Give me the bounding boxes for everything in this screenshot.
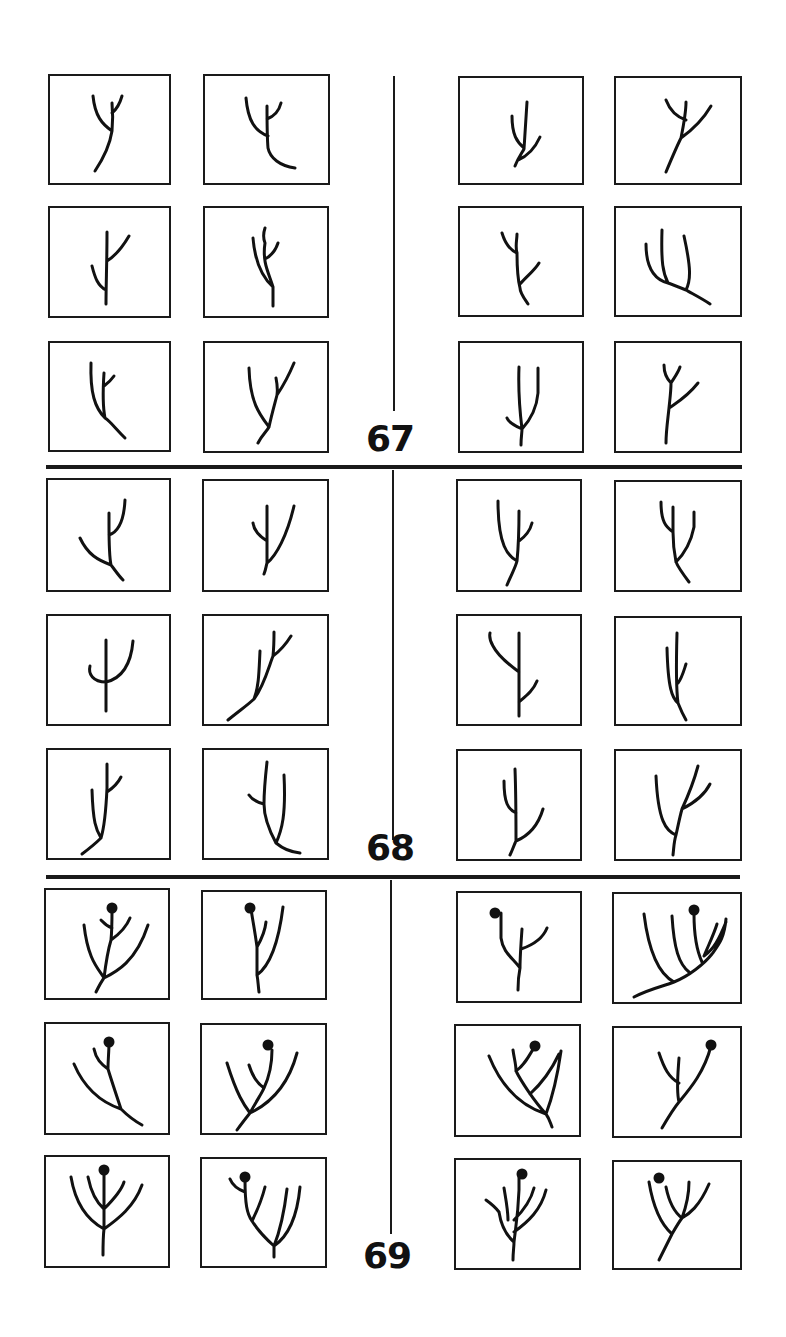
tree-diagram-panel <box>203 206 329 318</box>
branching-tree-icon <box>50 208 169 316</box>
tree-diagram-panel <box>456 891 582 1003</box>
branching-tree-icon <box>48 480 169 590</box>
branching-tree-icon <box>50 343 169 450</box>
branching-tree-icon <box>614 1162 740 1268</box>
terminal-dot-icon <box>245 903 256 914</box>
tree-diagram-panel <box>48 74 171 185</box>
tree-diagram-panel <box>202 748 329 860</box>
tree-diagram-panel <box>48 206 171 318</box>
branching-tree-icon <box>616 482 740 590</box>
tree-diagram-panel <box>456 614 582 726</box>
tree-diagram-panel <box>612 1026 742 1138</box>
branching-tree-icon <box>616 343 740 451</box>
tree-diagram-panel <box>456 749 582 861</box>
branching-tree-icon <box>460 78 582 183</box>
branching-tree-icon <box>202 1025 325 1133</box>
tree-diagram-panel <box>614 76 742 185</box>
branching-tree-icon <box>616 618 740 724</box>
branching-tree-icon <box>458 751 580 859</box>
tree-diagram-panel <box>614 616 742 726</box>
branching-tree-icon <box>614 894 740 1002</box>
group-number-label: 67 <box>366 421 414 457</box>
tree-diagram-panel <box>48 341 171 452</box>
tree-diagram-panel <box>614 749 742 861</box>
tree-diagram-panel <box>458 76 584 185</box>
tree-diagram-panel <box>200 1023 327 1135</box>
branching-tree-icon <box>204 481 327 590</box>
tree-diagram-panel <box>458 206 584 317</box>
tree-diagram-panel <box>612 892 742 1004</box>
branching-tree-icon <box>203 892 325 998</box>
branching-tree-icon <box>616 751 740 859</box>
terminal-dot-icon <box>99 1165 110 1176</box>
vertical-divider <box>393 76 395 411</box>
branching-tree-icon <box>205 208 327 316</box>
branching-tree-icon <box>48 616 169 724</box>
tree-diagram-panel <box>202 479 329 592</box>
terminal-dot-icon <box>517 1169 528 1180</box>
terminal-dot-icon <box>240 1172 251 1183</box>
tree-diagram-panel <box>612 1160 742 1270</box>
tree-diagram-panel <box>203 74 330 185</box>
branching-tree-icon <box>614 1028 740 1136</box>
horizontal-divider <box>46 465 742 469</box>
branching-tree-icon <box>456 1160 579 1268</box>
branching-tree-icon <box>46 1024 168 1133</box>
terminal-dot-icon <box>706 1040 717 1051</box>
tree-diagram-panel <box>44 888 170 1000</box>
tree-diagram-panel <box>202 614 329 726</box>
terminal-dot-icon <box>104 1037 115 1048</box>
branching-tree-icon <box>616 78 740 183</box>
tree-diagram-panel <box>458 341 584 453</box>
group-number-label: 68 <box>366 830 414 866</box>
terminal-dot-icon <box>107 903 118 914</box>
tree-diagram-panel <box>456 479 582 592</box>
branching-tree-icon <box>48 750 169 858</box>
tree-diagram-panel <box>614 480 742 592</box>
branching-tree-icon <box>46 1157 168 1266</box>
tree-diagram-panel <box>200 1157 327 1268</box>
tree-diagram-panel <box>46 748 171 860</box>
vertical-divider <box>390 880 392 1234</box>
branching-tree-icon <box>46 890 168 998</box>
tree-diagram-panel <box>454 1158 581 1270</box>
branching-tree-icon <box>458 481 580 590</box>
tree-diagram-panel <box>614 206 742 317</box>
branching-tree-icon <box>458 616 580 724</box>
branching-tree-icon <box>202 1159 325 1266</box>
branching-tree-icon <box>460 208 582 315</box>
tree-diagram-panel <box>46 478 171 592</box>
tree-diagram-panel <box>44 1155 170 1268</box>
group-number-label: 69 <box>363 1238 411 1274</box>
terminal-dot-icon <box>689 905 700 916</box>
branching-tree-icon <box>204 750 327 858</box>
tree-diagram-panel <box>614 341 742 453</box>
branching-tree-icon <box>616 208 740 315</box>
branching-tree-icon <box>460 343 582 451</box>
branching-tree-icon <box>458 893 580 1001</box>
tree-diagram-panel <box>454 1024 581 1137</box>
tree-diagram-panel <box>201 890 327 1000</box>
terminal-dot-icon <box>654 1173 665 1184</box>
branching-tree-icon <box>204 616 327 724</box>
horizontal-divider <box>46 875 740 879</box>
tree-diagram-panel <box>46 614 171 726</box>
tree-diagram-panel <box>44 1022 170 1135</box>
terminal-dot-icon <box>490 908 501 919</box>
terminal-dot-icon <box>263 1040 274 1051</box>
vertical-divider <box>392 470 394 840</box>
branching-tree-icon <box>50 76 169 183</box>
branching-tree-icon <box>456 1026 579 1135</box>
tree-diagram-panel <box>203 341 329 453</box>
branching-tree-icon <box>205 343 327 451</box>
branching-tree-icon <box>205 76 328 183</box>
terminal-dot-icon <box>530 1041 541 1052</box>
